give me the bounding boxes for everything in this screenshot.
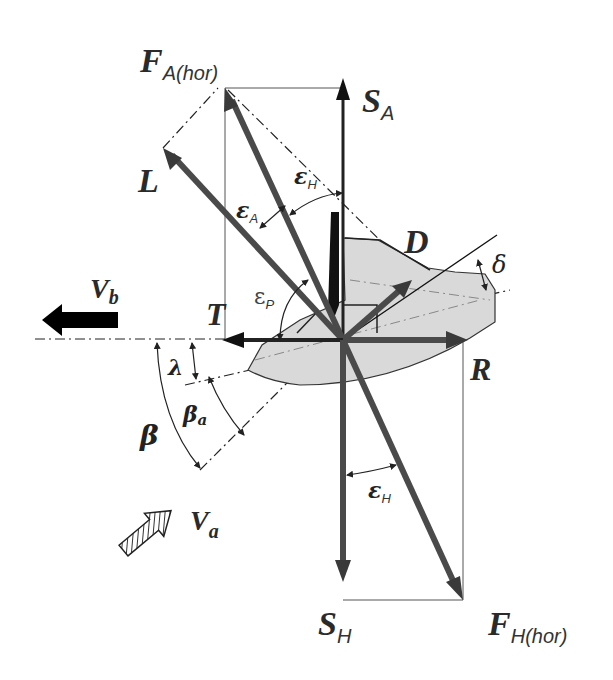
arc-epsilon-A [260,206,285,228]
arc-lambda [192,343,196,379]
label-S_A: SA [362,82,394,124]
label-V_b: Vb [90,273,119,308]
vb-arrow [42,304,118,336]
label-L: L [137,162,159,199]
label-F_H_hor: FH(hor) [487,605,567,647]
label-T: T [206,296,227,332]
label-epsilon-A: εA [236,197,258,226]
label-epsilon-H-bottom: εH [368,477,391,506]
arc-epsilon-H-top [290,193,342,215]
label-beta: β [139,419,159,452]
label-epsilon-P: εP [254,284,274,312]
vectors [172,95,455,585]
label-beta-a: βa [182,401,207,429]
label-delta: δ [492,251,506,279]
label-S_H: SH [318,605,352,647]
mast [328,212,339,318]
arc-epsilon-H-bottom [347,465,396,475]
vector-F_H_hor [343,340,455,585]
label-D: D [403,223,429,260]
va-arrow [114,499,181,562]
label-F_A_hor: FA(hor) [139,42,218,84]
label-V_a: Va [190,505,219,542]
arc-beta-a [209,377,244,435]
vector-L [172,155,343,340]
force-diagram: FA(hor) SA L D T R SH FH(hor) Vb Va εA ε… [0,0,613,680]
label-epsilon-H-top: εH [294,163,317,192]
label-lambda: λ [167,354,183,380]
label-R: R [469,351,491,387]
